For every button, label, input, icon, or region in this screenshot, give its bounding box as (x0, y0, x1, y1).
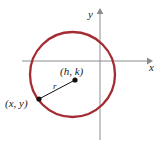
x-axis-label: x (149, 62, 154, 73)
circle-point-label: (x, y) (5, 98, 28, 109)
radius-segment-line (39, 80, 75, 99)
y-axis-arrowhead-icon (97, 8, 104, 14)
center-point-label: (h, k) (60, 66, 83, 77)
center-point-dot (72, 77, 77, 82)
x-axis (22, 58, 153, 65)
circle-point-dot (36, 96, 41, 101)
circle-diagram-figure: y x (h, k) (x, y) r (0, 0, 165, 146)
y-axis (97, 8, 104, 140)
y-axis-label: y (88, 9, 93, 20)
radius-label: r (53, 82, 57, 91)
